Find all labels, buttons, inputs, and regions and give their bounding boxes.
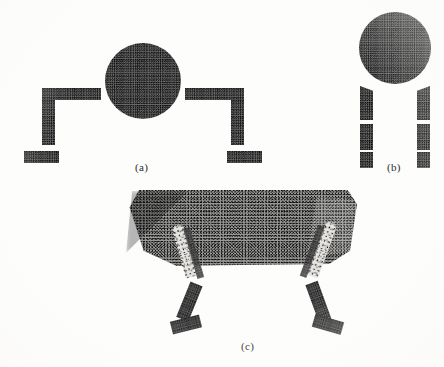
panel-a-left-horizontal-bar (42, 88, 101, 100)
panel-a-left-foot-bar (24, 151, 59, 163)
panel-a-right-horizontal-bar (185, 88, 244, 100)
panel-a-right-vertical-bar (231, 100, 244, 145)
panel-b-circle (359, 12, 431, 84)
panel-b-left-leg-segment-2 (360, 124, 373, 150)
figure-root: (a) (b) (c) (0, 0, 444, 367)
panel-b-label: (b) (387, 161, 401, 173)
panel-a-label: (a) (135, 161, 148, 173)
panel-a-right-foot-bar (227, 151, 262, 163)
panel-b-right-leg-segment-1 (417, 86, 430, 120)
panel-c-label: (c) (241, 340, 254, 352)
panel-a-circle (105, 43, 181, 119)
panel-b-left-leg-segment-3 (360, 152, 373, 168)
panel-b-left-leg-segment-1 (360, 86, 373, 120)
panel-c-rear-foot (312, 314, 344, 335)
panel-a-left-vertical-bar (42, 100, 55, 145)
panel-b-right-leg-segment-2 (417, 124, 430, 150)
panel-b-right-leg-segment-3 (417, 152, 430, 168)
panel-c-front-foot (170, 315, 202, 335)
